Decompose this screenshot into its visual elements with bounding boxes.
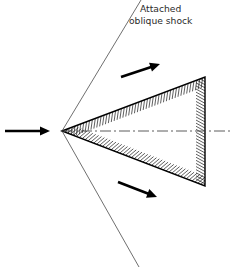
shock-label-line-1: Attached: [140, 3, 181, 14]
oblique-shock-diagram: Attached oblique shock: [0, 0, 230, 267]
diagram-canvas: Attached oblique shock: [0, 0, 230, 267]
shock-label-line-2: oblique shock: [129, 15, 193, 26]
